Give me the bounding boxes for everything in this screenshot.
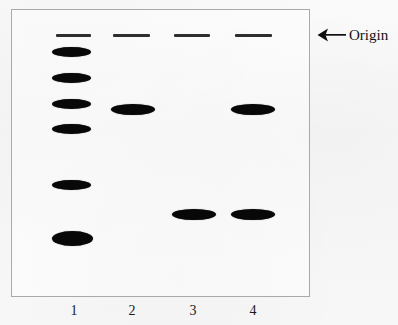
lane-label-1: 1: [59, 303, 89, 319]
lane-1-band-4: [52, 124, 91, 134]
lane-1-band-2: [52, 73, 91, 83]
lane-4-origin-band: [235, 34, 272, 37]
gel-electrophoresis-figure: 1 2 3 4 Origin: [0, 0, 398, 325]
lane-4-band-1: [231, 104, 275, 115]
lane-label-2: 2: [117, 303, 147, 319]
lane-2-origin-band: [113, 34, 150, 37]
lane-1-band-6: [52, 231, 93, 246]
lane-3-band-1: [172, 209, 216, 220]
origin-annotation: Origin: [316, 25, 388, 45]
origin-label: Origin: [349, 27, 388, 44]
lane-1-band-5: [52, 180, 91, 190]
lane-3-origin-band: [174, 34, 210, 37]
lane-2-band-1: [111, 104, 155, 115]
lane-1-band-1: [52, 47, 91, 57]
lane-label-4: 4: [238, 303, 268, 319]
left-arrow-icon: [316, 27, 346, 43]
lane-1-band-3: [52, 99, 91, 109]
lane-label-3: 3: [178, 303, 208, 319]
lane-1-origin-band: [56, 34, 91, 37]
lane-4-band-2: [231, 209, 275, 220]
